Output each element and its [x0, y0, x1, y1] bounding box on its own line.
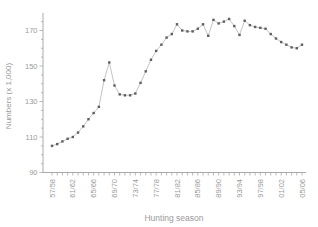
data-point-marker	[217, 22, 219, 24]
data-series	[51, 18, 303, 147]
data-point-marker	[254, 26, 256, 28]
data-point-marker	[119, 93, 121, 95]
data-point-marker	[244, 20, 246, 22]
data-point-marker	[98, 106, 100, 108]
x-tick-label: 69/70	[110, 179, 119, 198]
x-tick-label: 89/90	[214, 179, 223, 198]
data-point-marker	[181, 29, 183, 31]
data-point-marker	[155, 50, 157, 52]
data-point-marker	[108, 61, 110, 63]
x-tick-label: 61/62	[68, 179, 77, 198]
data-point-marker	[301, 44, 303, 46]
x-tick-label: 85/86	[193, 179, 202, 198]
data-point-marker	[165, 36, 167, 38]
data-point-marker	[259, 27, 261, 29]
data-point-marker	[296, 47, 298, 49]
data-point-marker	[72, 136, 74, 138]
data-point-marker	[176, 23, 178, 25]
data-point-marker	[92, 112, 94, 114]
data-point-marker	[275, 37, 277, 39]
x-tick-label: 81/82	[173, 179, 182, 198]
data-point-marker	[270, 33, 272, 35]
data-point-marker	[129, 94, 131, 96]
y-tick-label: 130	[25, 97, 38, 106]
y-axis-title: Numbers (x 1,000)	[4, 63, 13, 130]
series-line	[52, 19, 302, 146]
data-point-marker	[197, 28, 199, 30]
data-point-marker	[51, 145, 53, 147]
data-point-marker	[223, 20, 225, 22]
y-axis-ticks: 90110130150170	[25, 22, 43, 177]
line-chart-svg: 90110130150170 57/5861/6265/6669/7073/74…	[0, 0, 318, 227]
data-point-marker	[145, 70, 147, 72]
data-point-marker	[264, 28, 266, 30]
data-point-marker	[238, 34, 240, 36]
x-tick-label: 57/58	[48, 179, 57, 198]
y-tick-label: 170	[25, 26, 38, 35]
data-point-marker	[87, 118, 89, 120]
data-point-marker	[212, 19, 214, 21]
data-point-marker	[103, 79, 105, 81]
data-point-marker	[113, 84, 115, 86]
data-point-marker	[134, 92, 136, 94]
data-point-marker	[77, 131, 79, 133]
x-axis-ticks: 57/5861/6265/6669/7073/7477/7881/8285/86…	[48, 173, 307, 198]
x-tick-label: 73/74	[131, 179, 140, 198]
data-point-marker	[285, 44, 287, 46]
y-tick-label: 150	[25, 62, 38, 71]
data-point-marker	[171, 33, 173, 35]
data-point-marker	[249, 24, 251, 26]
data-point-marker	[207, 35, 209, 37]
y-tick-label: 110	[26, 133, 38, 142]
x-tick-label: 01/02	[277, 179, 286, 198]
data-point-marker	[124, 94, 126, 96]
y-tick-label: 90	[29, 168, 37, 177]
data-point-marker	[66, 138, 68, 140]
data-point-marker	[150, 59, 152, 61]
data-point-marker	[233, 25, 235, 27]
data-point-marker	[82, 125, 84, 127]
data-point-marker	[202, 23, 204, 25]
data-point-marker	[56, 143, 58, 145]
chart: 90110130150170 57/5861/6265/6669/7073/74…	[0, 0, 318, 227]
x-tick-label: 05/06	[298, 179, 307, 198]
data-point-marker	[228, 18, 230, 20]
x-tick-label: 77/78	[152, 179, 161, 198]
data-point-marker	[191, 30, 193, 32]
data-point-marker	[186, 30, 188, 32]
data-point-marker	[139, 82, 141, 84]
x-tick-label: 93/94	[235, 179, 244, 198]
data-point-marker	[61, 140, 63, 142]
x-tick-label: 97/98	[256, 179, 265, 198]
data-point-marker	[160, 44, 162, 46]
data-point-marker	[290, 46, 292, 48]
data-point-marker	[280, 41, 282, 43]
x-axis-title: Hunting season	[144, 213, 203, 223]
x-tick-label: 65/66	[89, 179, 98, 198]
